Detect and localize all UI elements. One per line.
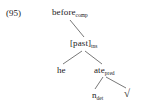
tree-node-n-label: n [92,90,97,100]
tree-node-root-sign: √ [124,88,130,99]
branch-predicate-to-determiner [95,77,103,89]
figure-container: (95) beforecomp [past]tns he atepred nde… [0,0,142,106]
tree-node-before: beforecomp [52,8,88,17]
tree-node-he: he [57,66,66,75]
tree-node-n-subscript: det [97,95,104,101]
branch-tense-to-predicate [85,51,102,64]
tree-node-past-subscript: tns [91,43,97,49]
tree-node-n: ndet [92,91,103,100]
tree-node-he-label: he [57,65,66,75]
tree-node-before-subscript: comp [76,12,88,18]
tree-node-ate-label: ate [94,65,105,75]
branch-tense-to-subject [63,51,82,64]
tree-node-past-label: [past] [70,38,91,48]
branch-predicate-to-root-sign [106,77,126,88]
tree-node-before-label: before [52,7,76,17]
tree-node-ate-subscript: pred [105,70,115,76]
tree-node-past: [past]tns [70,39,98,48]
branch-root-to-tense [70,20,84,37]
tree-node-ate: atepred [94,66,115,75]
example-number: (95) [6,9,21,18]
